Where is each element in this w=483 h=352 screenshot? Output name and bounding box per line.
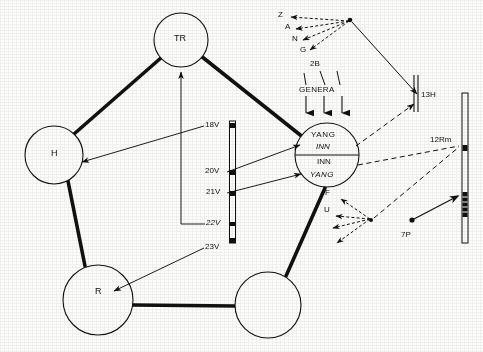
dashed-link-fu-to-12rm (374, 147, 459, 218)
zang-hub-dot[interactable] (348, 18, 353, 23)
voltage-tick-label-22v: 22V (206, 219, 220, 227)
fu-letter-f: F (325, 189, 330, 197)
organ-node-r[interactable] (63, 265, 133, 335)
zang-arrow-a (296, 21, 349, 29)
voltage-tick-label-21v: 21V (206, 188, 220, 196)
voltage-tick-22v (230, 222, 235, 226)
zang-letter-z: Z (278, 11, 283, 19)
voltage-arrow-21v-to-yang-lower (227, 174, 301, 193)
voltage-scale-bar[interactable] (230, 121, 236, 243)
fu-arrow-2 (336, 216, 370, 219)
zang-arrow-z (291, 17, 349, 21)
genera-top-label-2b: 2B (310, 60, 320, 68)
voltage-arrow-23v-to-r (114, 248, 204, 291)
voltage-arrow-group (82, 72, 301, 291)
zang-letter-a: A (285, 23, 290, 31)
tall-bar-body (462, 93, 468, 243)
fu-arrow-1 (341, 199, 370, 219)
tall-bar-marker-12rm (463, 145, 468, 151)
zang-letter-n: N (292, 35, 298, 43)
organ-node-group (25, 13, 301, 338)
dashed-link-group (356, 104, 459, 218)
thick-link-h-r (68, 181, 85, 266)
voltage-tick-label-23v: 23V (205, 243, 219, 251)
organ-node-label-tr: TR (174, 34, 186, 43)
zang-arrow-n (303, 21, 349, 40)
zang-letter-g: G (300, 46, 306, 54)
voltage-tick-label-20v: 20V (205, 167, 219, 175)
short-bar-label-13h: 13H (421, 91, 436, 99)
tall-bar-hatched-segment (463, 192, 468, 217)
voltage-arrow-18v-to-h (82, 126, 204, 162)
organ-node-unlabeled[interactable] (235, 272, 301, 338)
diagram-vector-layer (0, 0, 483, 352)
genera-tick-1 (304, 73, 306, 85)
dashed-link-yang-to-13h (356, 104, 414, 146)
fu-letter-u: U (324, 206, 330, 214)
genera-tick-3 (337, 71, 340, 85)
fu-dashed-fan (333, 199, 370, 243)
voltage-tick-18v (230, 123, 235, 128)
zang-hub-to-13h-line (352, 22, 417, 94)
point-label-7p: 7P (401, 231, 411, 239)
genera-tick-group (304, 71, 340, 85)
thick-link-br-yang (286, 188, 325, 276)
diagram-canvas: TR H R YANG INN INN YANG 18V 20V 21V 22V… (0, 0, 483, 352)
point-7p-arrow-to-bar (414, 196, 458, 219)
dashed-link-yang-to-12rm (358, 146, 459, 165)
genera-arrow-group (306, 96, 342, 113)
organ-node-label-h: H (51, 149, 58, 158)
point-7p-dot[interactable] (409, 217, 414, 222)
genera-word: GENERA (299, 86, 335, 94)
voltage-tick-23v (230, 238, 235, 243)
voltage-arrow-22v-bracket-to-tr (181, 72, 205, 224)
zang-arrow-g (310, 21, 349, 50)
voltage-arrow-20v-to-yang-upper (227, 145, 300, 172)
tall-bar-right[interactable] (462, 93, 468, 243)
thick-link-tr-h (74, 57, 162, 134)
split-node-bottom-line1: INN (317, 158, 331, 166)
split-node-top-line1: YANG (311, 131, 335, 139)
split-node-bottom-line2: YANG (310, 171, 334, 179)
genera-tick-2 (320, 71, 325, 85)
fu-hub-dot[interactable] (369, 218, 373, 222)
thick-link-r-br (133, 305, 235, 306)
tall-bar-label-12rm: 12Rm (430, 136, 451, 144)
split-node-top-line2: INN (316, 143, 330, 151)
voltage-tick-label-18v: 18V (205, 121, 219, 129)
organ-node-label-r: R (95, 287, 102, 296)
